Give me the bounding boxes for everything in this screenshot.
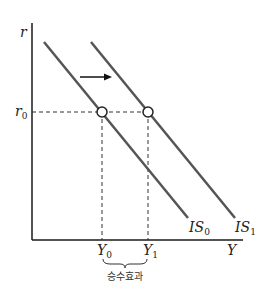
y0-label: Y0 xyxy=(97,242,112,260)
is1-curve xyxy=(91,42,235,218)
multiplier-effect-label: 승수효과 xyxy=(107,271,143,282)
dashed-guides xyxy=(32,112,148,240)
r0-label: r0 xyxy=(15,103,28,121)
is-shift-diagram: r Y r0 IS0 IS1 Y0 Y1 승수효과 xyxy=(0,0,264,297)
equilibrium-point-0 xyxy=(97,107,107,117)
shift-arrow-icon xyxy=(80,74,112,81)
y-axis-label: r xyxy=(20,24,28,40)
brace-icon xyxy=(103,259,147,268)
is0-curve xyxy=(44,42,188,218)
equilibrium-point-1 xyxy=(143,107,153,117)
is1-label: IS1 xyxy=(234,219,256,237)
axes xyxy=(32,23,243,240)
y1-label: Y1 xyxy=(143,242,158,260)
x-axis-label: Y xyxy=(227,242,238,258)
is0-label: IS0 xyxy=(188,219,210,237)
